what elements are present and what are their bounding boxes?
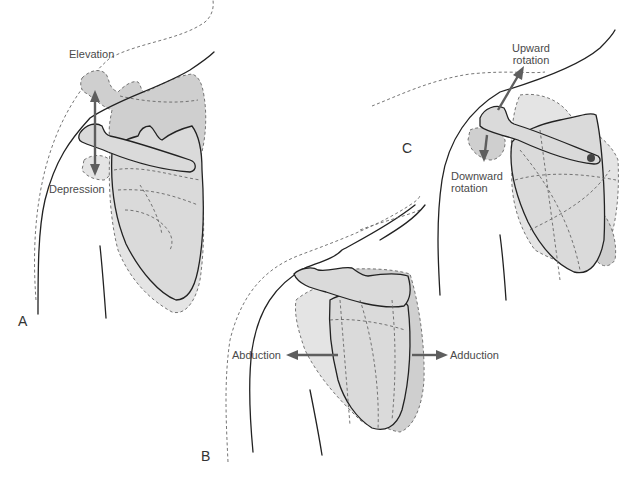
panel-label-b: B — [201, 448, 210, 464]
abduction-label: Abduction — [232, 349, 281, 361]
upward-rotation-label: Upward rotation — [506, 42, 556, 66]
depression-label: Depression — [49, 183, 105, 195]
panel-label-c: C — [402, 140, 412, 156]
panel-label-a: A — [18, 313, 27, 329]
panel-c-drawing — [360, 30, 618, 300]
adduction-label: Adduction — [450, 349, 499, 361]
panel-a-drawing — [35, 0, 214, 318]
upward-rotation-line2: rotation — [506, 54, 556, 66]
panel-b-drawing — [226, 195, 424, 462]
downward-rotation-line1: Downward — [451, 170, 503, 182]
elevation-label: Elevation — [69, 48, 114, 60]
downward-rotation-line2: rotation — [451, 182, 503, 194]
downward-rotation-label: Downward rotation — [451, 170, 503, 194]
upward-rotation-line1: Upward — [506, 42, 556, 54]
scapular-movements-illustration — [0, 0, 635, 479]
